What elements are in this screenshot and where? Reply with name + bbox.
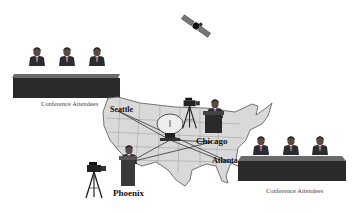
conference-table-left <box>12 47 120 98</box>
presenter-chicago <box>203 99 224 133</box>
video-camera-left <box>86 162 106 198</box>
conference-table-right <box>238 136 346 181</box>
city-label-atlanta: Atlanta <box>212 156 238 165</box>
city-label-chicago: Chicago <box>196 136 228 146</box>
caption-right-attendees: Conference Attendees <box>266 187 323 194</box>
caption-left-attendees: Conference Attendees <box>41 100 98 107</box>
diagram: Seattle Chicago Atlanta Phoenix Conferen… <box>0 0 356 213</box>
satellite-icon <box>181 12 213 38</box>
city-label-phoenix: Phoenix <box>113 188 144 198</box>
city-label-seattle: Seattle <box>110 105 133 114</box>
